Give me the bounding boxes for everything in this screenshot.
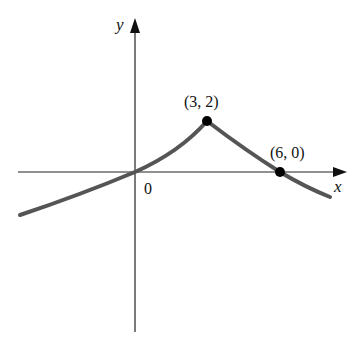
x-axis-arrow-icon — [333, 167, 347, 177]
peak-label: (3, 2) — [184, 93, 219, 111]
function-curve — [20, 121, 330, 215]
graph-canvas: y x 0 (3, 2) (6, 0) — [0, 0, 355, 340]
y-axis-arrow-icon — [130, 18, 140, 33]
origin-label: 0 — [144, 180, 152, 197]
graph-figure: y x 0 (3, 2) (6, 0) — [0, 0, 355, 340]
x-axis-label: x — [333, 177, 342, 196]
y-axis-label: y — [114, 15, 124, 34]
peak-point — [202, 116, 212, 126]
root-point — [275, 167, 285, 177]
root-label: (6, 0) — [270, 144, 305, 162]
